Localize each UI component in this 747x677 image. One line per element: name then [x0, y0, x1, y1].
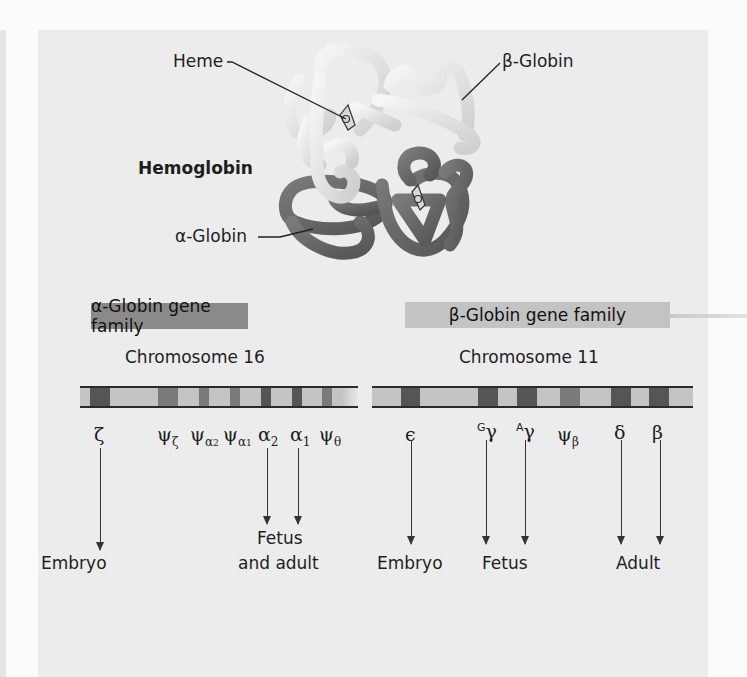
- gene-psi-alpha2: ψα2: [190, 425, 219, 448]
- gene-psi-theta: ψθ: [319, 425, 341, 448]
- chromosome-11-label: Chromosome 11: [459, 349, 599, 366]
- heme-label: Heme: [173, 53, 223, 70]
- arrow-epsilon-to-embryo: [411, 440, 412, 544]
- band-epsilon: [401, 388, 420, 406]
- band-delta: [611, 388, 631, 406]
- bar-fade: [342, 388, 358, 406]
- band-psi-zeta: [158, 388, 178, 406]
- band-beta: [649, 388, 669, 406]
- gene-alpha2: α2: [258, 425, 278, 448]
- band-a-gamma: [517, 388, 537, 406]
- alpha-adult-label: and adult: [238, 555, 319, 572]
- gene-psi-alpha1: ψα1: [223, 425, 252, 448]
- hemoglobin-title: Hemoglobin: [138, 160, 253, 177]
- gene-psi-beta: ψβ: [557, 425, 579, 448]
- chromosome-11-bar: [372, 386, 693, 408]
- beta-family-header-text: β-Globin gene family: [449, 305, 626, 325]
- gene-zeta: ζ: [94, 425, 104, 444]
- alpha-fetus-label: Fetus: [257, 530, 303, 547]
- beta-embryo-label: Embryo: [377, 555, 443, 572]
- band-alpha1: [292, 388, 302, 406]
- arrow-delta-to-adult: [621, 440, 622, 544]
- band-alpha2: [261, 388, 271, 406]
- band-zeta: [90, 388, 110, 406]
- beta-adult-label: Adult: [616, 555, 660, 572]
- chromosome-16-bar: [80, 386, 358, 408]
- arrow-beta-to-adult: [660, 440, 661, 544]
- alpha-globin-family-header: α-Globin gene family: [91, 303, 248, 329]
- arrow-a-gamma-to-fetus: [525, 440, 526, 544]
- gene-a-gamma: Aγ: [516, 422, 535, 441]
- beta-header-extension: [670, 314, 747, 318]
- arrow-alpha1-to-fetus: [298, 448, 299, 524]
- gene-beta: β: [652, 423, 663, 442]
- gene-psi-zeta: ψζ: [157, 425, 178, 448]
- band-psi-theta: [322, 388, 332, 406]
- hemoglobin-illustration: [0, 0, 747, 677]
- arrow-g-gamma-to-fetus: [486, 440, 487, 544]
- arrow-zeta-to-embryo: [100, 448, 101, 550]
- band-psi-alpha1: [230, 388, 240, 406]
- band-psi-alpha2: [199, 388, 209, 406]
- gene-g-gamma: Gγ: [477, 422, 497, 441]
- band-psi-beta: [560, 388, 580, 406]
- alpha-globin-label: α-Globin: [175, 228, 247, 245]
- band-g-gamma: [478, 388, 498, 406]
- gene-alpha1: α1: [290, 425, 310, 448]
- alpha-embryo-label: Embryo: [41, 555, 107, 572]
- beta-globin-label: β-Globin: [502, 53, 574, 70]
- beta-fetus-label: Fetus: [482, 555, 528, 572]
- alpha-family-header-text: α-Globin gene family: [91, 296, 248, 336]
- beta-globin-family-header: β-Globin gene family: [405, 302, 670, 328]
- arrow-alpha2-to-fetus: [267, 448, 268, 524]
- chromosome-16-label: Chromosome 16: [125, 349, 265, 366]
- gene-delta: δ: [614, 423, 625, 442]
